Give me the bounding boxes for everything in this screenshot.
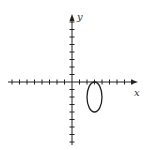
y-axis-label: y [76, 11, 83, 22]
y-axis [70, 14, 75, 145]
coordinate-plane: y x [0, 0, 146, 150]
y-axis-arrow-icon [70, 14, 75, 21]
ellipse-curve [87, 82, 102, 112]
x-axis-label: x [134, 87, 140, 98]
x-axis [8, 80, 138, 85]
